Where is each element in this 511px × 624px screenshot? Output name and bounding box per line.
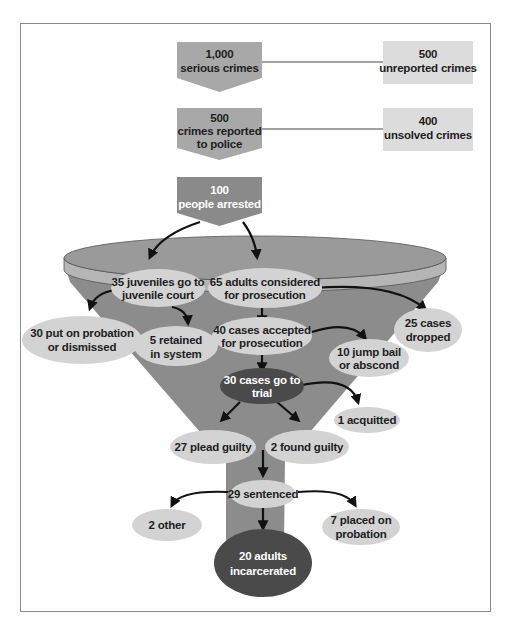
arrow-to-placed-probation: [298, 491, 355, 505]
stage-box-reported-crimes: 500 crimes reported to police: [177, 108, 262, 160]
adults-label-2: for prosecution: [224, 289, 306, 301]
node-incarcerated: 20 adults incarcerated: [214, 529, 312, 597]
node-jump-bail: 10 jump bail or abscond: [329, 339, 409, 377]
node-acquitted: 1 acquitted: [334, 407, 400, 433]
placed-probation-label-2: probation: [335, 528, 386, 540]
serious-crimes-count: 1,000: [206, 48, 234, 60]
sentenced-label: 29 sentenced: [228, 488, 299, 500]
unreported-label: unreported crimes: [379, 62, 477, 74]
stage-box-people-arrested: 100 people arrested: [177, 177, 262, 226]
juveniles-label-1: 35 juveniles go to: [112, 276, 205, 288]
unreported-count: 500: [419, 48, 438, 60]
probation-dismissed-label-2: or dismissed: [48, 341, 117, 353]
plead-guilty-label: 27 plead guilty: [175, 441, 253, 453]
accepted-label-1: 40 cases accepted: [213, 324, 311, 336]
unsolved-label: unsolved crimes: [384, 129, 472, 141]
node-trial: 30 cases go to trial: [220, 368, 304, 404]
trial-label-2: trial: [252, 387, 272, 399]
trial-label-1: 30 cases go to: [224, 374, 301, 386]
jump-bail-label-2: or abscond: [339, 359, 399, 371]
other-label: 2 other: [149, 519, 187, 531]
dropped-label-2: dropped: [406, 331, 451, 343]
found-guilty-label: 2 found guilty: [271, 441, 344, 453]
placed-probation-label-1: 7 placed on: [330, 514, 391, 526]
node-juveniles: 35 juveniles go to juvenile court: [111, 269, 205, 307]
reported-count: 500: [210, 112, 229, 124]
node-placed-probation: 7 placed on probation: [322, 509, 400, 545]
reported-label-2: to police: [197, 138, 242, 150]
arrested-count: 100: [210, 184, 229, 196]
incarcerated-label-1: 20 adults: [239, 550, 287, 562]
probation-dismissed-label-1: 30 put on probation: [30, 327, 134, 339]
side-box-unreported: 500 unreported crimes: [379, 41, 477, 84]
stage-box-serious-crimes: 1,000 serious crimes: [177, 42, 262, 92]
retained-label-1: 5 retained: [150, 334, 203, 346]
node-found-guilty: 2 found guilty: [265, 430, 349, 464]
node-dropped: 25 cases dropped: [394, 308, 462, 352]
node-adults: 65 adults considered for prosecution: [208, 268, 322, 308]
juveniles-label-2: juvenile court: [121, 289, 194, 301]
acquitted-label: 1 acquitted: [338, 414, 397, 426]
node-plead-guilty: 27 plead guilty: [170, 430, 256, 464]
retained-label-2: in system: [150, 348, 201, 360]
funnel-diagram: 1,000 serious crimes 500 unreported crim…: [0, 0, 511, 624]
incarcerated-label-2: incarcerated: [230, 565, 296, 577]
side-box-unsolved: 400 unsolved crimes: [383, 108, 473, 151]
node-accepted: 40 cases accepted for prosecution: [212, 317, 312, 355]
jump-bail-label-1: 10 jump bail: [337, 346, 401, 358]
adults-label-1: 65 adults considered: [210, 276, 321, 288]
accepted-label-2: for prosecution: [221, 337, 303, 349]
serious-crimes-label: serious crimes: [180, 62, 258, 74]
arrow-to-other: [172, 492, 228, 505]
dropped-label-1: 25 cases: [405, 317, 451, 329]
arrested-label: people arrested: [178, 198, 261, 210]
node-retained: 5 retained in system: [134, 326, 218, 366]
unsolved-count: 400: [419, 115, 438, 127]
reported-label-1: crimes reported: [178, 125, 262, 137]
node-other: 2 other: [132, 509, 202, 541]
node-probation-dismissed: 30 put on probation or dismissed: [22, 316, 142, 364]
